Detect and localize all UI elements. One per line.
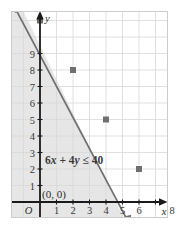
- inequality-graph-figure: 1 2 3 4 5 6 8 1 2 3 4 5 6 7 8 9 y x O (0…: [0, 0, 179, 237]
- inequality-label: 6x + 4y ≤ 40: [45, 154, 103, 167]
- y-tick-1: 1: [30, 181, 35, 192]
- point-marker-6-1: [136, 166, 142, 172]
- origin-label: O: [25, 205, 33, 216]
- x-axis-label: x: [161, 206, 167, 217]
- y-tick-9: 9: [30, 49, 35, 60]
- inequality-constant: 40: [92, 154, 104, 166]
- test-point-label: (0, 0): [42, 188, 66, 201]
- inequality-relation-sign: ≤: [80, 154, 92, 166]
- x-tick-2: 2: [70, 205, 75, 216]
- point-marker-4-4: [103, 117, 109, 123]
- x-tick-1: 1: [54, 205, 59, 216]
- y-axis-arrow-down: [36, 221, 43, 230]
- y-tick-8: 8: [30, 65, 35, 76]
- x-tick-5: 5: [120, 205, 125, 216]
- y-tick-2: 2: [30, 164, 35, 175]
- y-tick-labels: 1 2 3 4 5 6 7 8 9: [30, 49, 36, 192]
- y-tick-5: 5: [30, 115, 35, 126]
- y-tick-6: 6: [30, 98, 35, 109]
- y-tick-7: 7: [30, 82, 35, 93]
- y-tick-3: 3: [30, 148, 35, 159]
- inequality-plus-sign: +: [57, 154, 69, 166]
- y-axis-label: y: [44, 13, 50, 24]
- x-tick-4: 4: [103, 205, 109, 216]
- point-marker-2-7: [70, 67, 76, 73]
- line-arrow-lower-right: [124, 215, 131, 225]
- x-tick-3: 3: [87, 205, 92, 216]
- graph-canvas: 1 2 3 4 5 6 8 1 2 3 4 5 6 7 8 9 y x O (0…: [0, 0, 179, 237]
- y-tick-4: 4: [30, 131, 36, 142]
- x-tick-8: 8: [169, 205, 174, 216]
- x-tick-6: 6: [136, 205, 141, 216]
